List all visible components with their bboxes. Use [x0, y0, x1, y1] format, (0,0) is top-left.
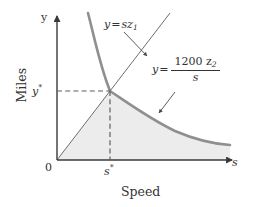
callout-arrow-curve-eq: [159, 92, 175, 113]
curve-eq-numerator-text: 1200 z: [174, 55, 211, 68]
y-axis-title: Miles: [16, 54, 29, 116]
curve-eq-denominator: s: [193, 71, 199, 83]
figure-container: Miles Speed y s 0 y* s* y=sz1 y= 1200 z2…: [0, 0, 261, 207]
callout-arrow-line-eq: [124, 32, 147, 56]
origin-tick-label: 0: [45, 162, 52, 173]
x-axis-variable-label: s: [232, 157, 238, 168]
curve-eq-fraction: 1200 z2 s: [171, 56, 219, 83]
curve-equation-label: y= 1200 z2 s: [152, 56, 220, 83]
s-star-asterisk: *: [110, 163, 114, 172]
line-eq-subscript: 1: [133, 23, 138, 32]
x-axis-title: Speed: [121, 186, 160, 199]
line-eq-equals: =: [110, 18, 121, 31]
curve-eq-numerator-subscript: 2: [212, 60, 217, 69]
y-star-asterisk: *: [38, 83, 42, 92]
line-equation-label: y=sz1: [104, 19, 138, 32]
line-eq-rhs: sz: [121, 18, 132, 31]
y-star-tick-label: y*: [32, 84, 42, 97]
curve-eq-equals: =: [158, 64, 171, 75]
curve-eq-numerator: 1200 z2: [171, 56, 219, 70]
s-star-tick-label: s*: [104, 164, 114, 177]
y-axis-variable-label: y: [41, 12, 47, 23]
